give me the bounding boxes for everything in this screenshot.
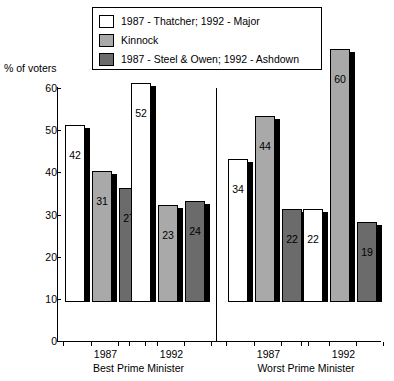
bar-value-label: 44	[251, 141, 279, 152]
x-tick-mark	[118, 342, 119, 346]
x-panel-label: Worst Prime Minister	[228, 362, 384, 374]
x-tick-mark	[157, 342, 158, 346]
bars-layer: 423127522324344422226019	[0, 0, 394, 342]
x-tick-mark	[184, 342, 185, 346]
x-tick-mark	[254, 342, 255, 346]
bar-shadow	[205, 204, 210, 302]
bar-value-label: 31	[88, 196, 116, 207]
bar[interactable]	[92, 171, 112, 302]
bar-chart: 1987 - Thatcher; 1992 - Major Kinnock 19…	[0, 0, 394, 381]
bar-value-label: 24	[181, 226, 209, 237]
bar-value-label: 23	[154, 230, 182, 241]
x-tick-mark	[129, 342, 130, 346]
x-tick-mark	[301, 342, 302, 346]
bar-shadow	[178, 208, 183, 302]
bar[interactable]	[185, 201, 205, 302]
x-group-label-1992: 1992	[303, 348, 384, 360]
x-tick-mark	[356, 342, 357, 346]
x-tick-mark	[281, 342, 282, 346]
bar-value-label: 22	[299, 234, 327, 245]
bar[interactable]	[228, 159, 248, 302]
bar-value-label: 52	[127, 108, 155, 119]
x-group-label-1987: 1987	[228, 348, 309, 360]
bar[interactable]	[158, 205, 178, 302]
bar-value-label: 34	[224, 184, 252, 195]
bar-value-label: 60	[326, 74, 354, 85]
x-tick-mark	[308, 342, 309, 346]
x-tick-mark	[91, 342, 92, 346]
x-panel-label: Best Prime Minister	[65, 362, 212, 374]
bar[interactable]	[303, 209, 323, 302]
bar-shadow	[323, 212, 328, 302]
bar[interactable]	[330, 49, 350, 302]
x-group-label-1992: 1992	[131, 348, 212, 360]
bar[interactable]	[357, 222, 377, 302]
x-tick-mark	[63, 342, 64, 346]
bar-shadow	[112, 174, 117, 302]
bar-shadow	[377, 225, 382, 302]
bar-value-label: 19	[353, 247, 381, 258]
x-tick-mark	[383, 342, 384, 346]
bar-shadow	[350, 52, 355, 302]
x-tick-mark	[329, 342, 330, 346]
bar[interactable]	[282, 209, 302, 302]
bar-value-label: 42	[61, 150, 89, 161]
x-tick-mark	[211, 342, 212, 346]
x-tick-mark	[145, 342, 146, 346]
x-tick-mark	[226, 342, 227, 346]
